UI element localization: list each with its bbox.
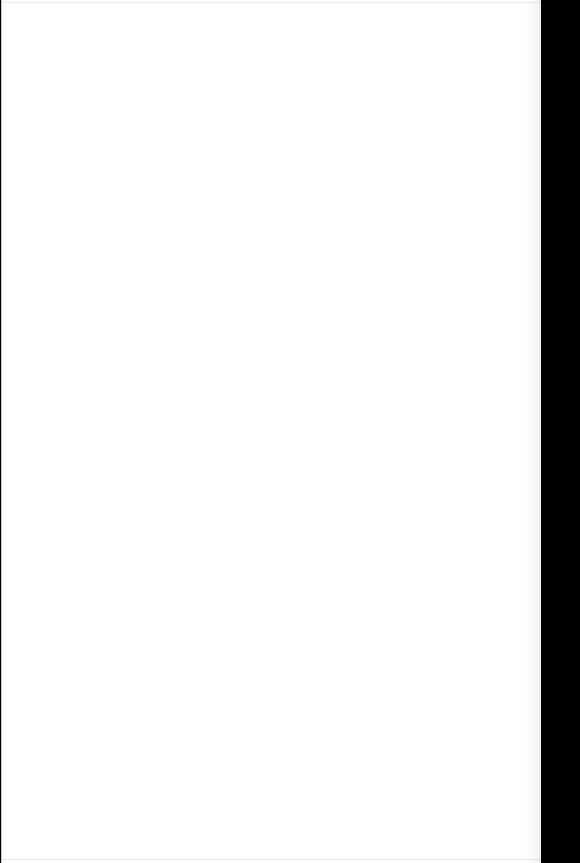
page-trim-shading (525, 0, 541, 863)
document-page (1, 0, 541, 863)
page-edge-left (1, 0, 2, 863)
document-viewer (0, 0, 580, 863)
page-edge-bottom (1, 859, 541, 860)
page-edge-top (1, 2, 541, 3)
page-edge-right (539, 0, 540, 863)
viewer-gutter-right (541, 0, 580, 863)
page-content-area (41, 48, 501, 818)
